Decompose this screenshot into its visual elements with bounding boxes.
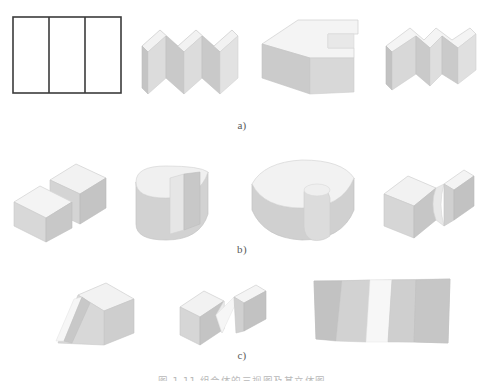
notched-block-rectangular (258, 14, 364, 100)
row-label-c: c) (0, 349, 484, 361)
orthographic-three-panel-view (12, 16, 122, 94)
figure-row-b: b) (0, 140, 484, 265)
wedge-with-diagonal-groove (48, 277, 146, 357)
block-with-v-groove (172, 275, 272, 357)
zigzag-block (134, 8, 246, 106)
figure-row-c: c) (0, 265, 484, 360)
half-cylinder-slotted (122, 152, 222, 248)
figure-row-a: a) (0, 0, 484, 140)
row-label-a: a) (0, 119, 484, 131)
stepped-diagonal-block (10, 160, 112, 248)
v-notched-block (380, 10, 480, 104)
wide-block-with-vertical-groove (308, 273, 456, 347)
figure-composite-solids: a) (0, 0, 484, 381)
row-label-b: b) (0, 243, 484, 255)
block-with-curved-groove (378, 156, 480, 246)
curved-block-with-cylinder (242, 152, 360, 248)
figure-caption: 图 1-11 组合体的三视图及其立体图 (0, 371, 484, 381)
